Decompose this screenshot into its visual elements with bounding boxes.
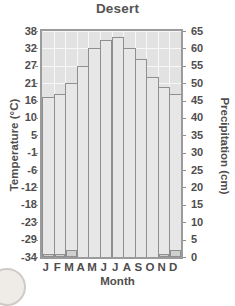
y-axis-right-tick-label: 5 [191,234,197,245]
precipitation-bar [43,254,54,257]
y-axis-right-tick-mark [183,222,186,223]
y-axis-right-tick-label: 45 [191,95,203,106]
y-axis-right-tick-mark [183,48,186,49]
y-axis-left-tick-label: -29 [4,234,37,245]
y-axis-left-tick-mark [35,135,38,136]
x-axis-tick-label: J [98,261,110,274]
precipitation-bar [170,250,181,257]
y-axis-right-tick-mark [183,31,186,32]
y-axis-left-tick-label: 27 [4,60,37,71]
x-axis-tick-label: O [144,261,156,274]
y-axis-left-tick-mark [35,257,38,258]
y-axis-left-tick-label: 32 [4,43,37,54]
y-axis-left-tick-label: -34 [4,252,37,263]
y-axis-left-tick-mark [35,66,38,67]
y-axis-right-tick-mark [183,118,186,119]
y-axis-left-tick-mark [35,187,38,188]
y-axis-left-tick-label: -6 [4,165,37,176]
x-axis-tick-label: M [86,261,98,274]
x-axis-tick-label: A [75,261,87,274]
y-axis-left-tick-mark [35,31,38,32]
y-axis-right-tick-mark [183,240,186,241]
x-axis-tick-label: N [156,261,168,274]
y-axis-right-tick-label: 0 [191,252,197,263]
y-axis-right-tick-mark [183,187,186,188]
precipitation-bar [55,254,66,257]
y-axis-left-tick-label: 38 [4,26,37,37]
x-axis-tick-label: J [110,261,122,274]
y-axis-left-tick-label: 16 [4,95,37,106]
y-axis-right-tick-label: 35 [191,130,203,141]
y-axis-right-tick-label: 60 [191,43,203,54]
y-axis-left-tick-label: 5 [4,130,37,141]
y-axis-right-tick-mark [183,66,186,67]
precipitation-bar [66,250,77,257]
y-axis-left-tick-label: -23 [4,217,37,228]
y-axis-left-tick-mark [35,222,38,223]
x-axis-tick-label: J [40,261,52,274]
y-axis-right-tick-label: 10 [191,217,203,228]
y-axis-right-tick-label: 55 [191,60,203,71]
x-axis-tick-label: S [133,261,145,274]
y-axis-right-tick-mark [183,170,186,171]
x-axis-tick-label: M [63,261,75,274]
y-axis-right-tick-mark [183,101,186,102]
y-axis-right-tick-label: 40 [191,112,203,123]
y-axis-left-tick-mark [35,101,38,102]
precipitation-bar [159,254,170,257]
y-axis-right-tick-label: 30 [191,147,203,158]
y-axis-right-tick-mark [183,205,186,206]
temperature-step-segment [169,94,182,257]
y-axis-right-tick-mark [183,135,186,136]
y-axis-right-ticks: 65605550454035302520151050 [187,0,217,292]
y-axis-right-tick-mark [183,83,186,84]
gridline-horizontal [42,257,181,258]
y-axis-left-ticks: 3832272116105-1-6-12-18-23-29-34 [0,0,37,292]
y-axis-left-tick-mark [35,83,38,84]
y-axis-left-tick-label: 21 [4,78,37,89]
y-axis-right-tick-label: 50 [191,78,203,89]
y-axis-left-tick-label: 10 [4,112,37,123]
y-axis-left-tick-mark [35,240,38,241]
y-axis-left-tick-mark [35,170,38,171]
y-axis-left-tick-mark [35,205,38,206]
y-axis-right-tick-mark [183,153,186,154]
y-axis-left-tick-mark [35,153,38,154]
y-axis-right-tick-mark [183,257,186,258]
y-axis-right-tick-label: 25 [191,165,203,176]
y-axis-left-tick-mark [35,48,38,49]
y-axis-left-tick-mark [35,118,38,119]
x-axis-tick-label: A [121,261,133,274]
x-axis-tick-label: D [167,261,179,274]
y-axis-left-tick-label: -12 [4,182,37,193]
y-axis-right-tick-label: 20 [191,182,203,193]
y-axis-right-title: Precipitation (cm) [219,83,231,209]
x-axis-tick-label: F [52,261,64,274]
y-axis-right-tick-label: 65 [191,26,203,37]
x-axis-month-labels: JFMAMJJASOND [40,261,183,276]
y-axis-right-tick-label: 15 [191,199,203,210]
y-axis-left-tick-label: -1 [4,147,37,158]
plot-area [40,29,183,259]
y-axis-left-tick-label: -18 [4,199,37,210]
